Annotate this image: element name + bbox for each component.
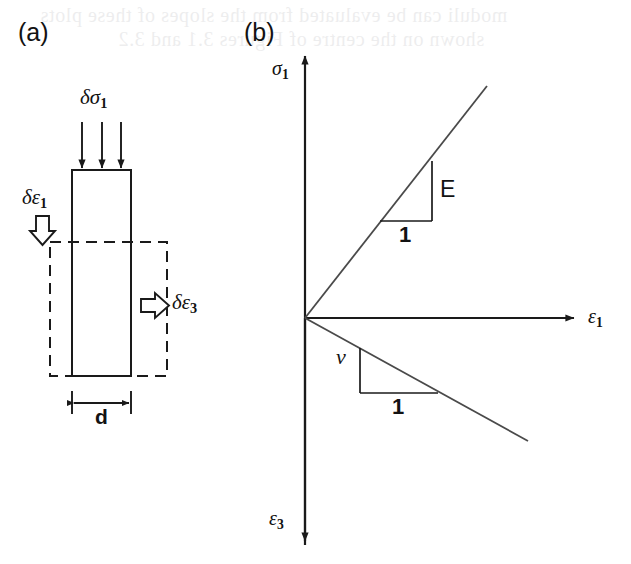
poissons-ratio-line: [305, 318, 528, 441]
modulus-symbol-label: E: [440, 178, 455, 201]
load-arrows-group: [82, 122, 121, 168]
epsilon3-axis-label: ε3: [269, 508, 284, 531]
panel-a-graphics: [30, 122, 169, 414]
radial-strain-hollow-arrow-icon: [141, 293, 169, 318]
axial-strain-hollow-arrow-icon: [30, 216, 55, 245]
poisson-symbol-label: ν: [336, 346, 346, 368]
sigma1-axis-label: σ1: [272, 58, 289, 81]
youngs-modulus-line: [305, 86, 487, 318]
specimen-rectangle: [72, 170, 131, 376]
stress-increment-label: δσ1: [80, 87, 107, 110]
modulus-run-label: 1: [399, 224, 411, 246]
axial-strain-label: δε1: [22, 187, 47, 210]
poisson-run-label: 1: [392, 396, 404, 418]
figure-root: moduli can be evaluated from the slopes …: [0, 0, 631, 564]
epsilon1-axis-label: ε1: [588, 306, 603, 329]
panel-b-graphics: [305, 56, 574, 545]
diameter-label: d: [95, 406, 108, 427]
panel-b-label: (b): [244, 18, 275, 47]
radial-strain-label: δε3: [172, 292, 197, 315]
panel-a-label: (a): [18, 18, 49, 47]
